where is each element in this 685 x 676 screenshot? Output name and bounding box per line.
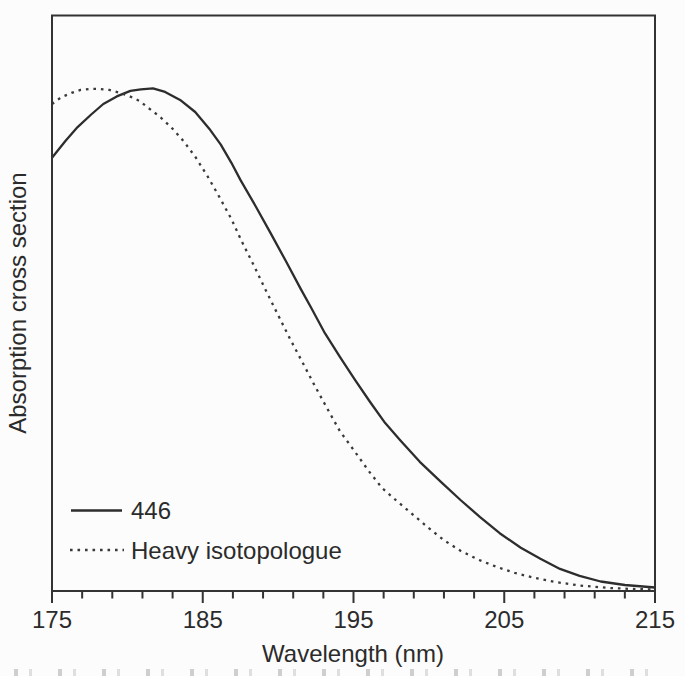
x-axis-tick-labels: 175185195205215 <box>32 606 675 633</box>
x-axis-label: Wavelength (nm) <box>262 640 444 667</box>
x-tick-label: 185 <box>183 606 223 633</box>
x-tick-label: 195 <box>333 606 373 633</box>
y-axis-label: Absorption cross section <box>4 172 31 433</box>
legend-label-446: 446 <box>131 497 171 524</box>
cropped-caption-fragments <box>14 669 666 676</box>
x-tick-label: 175 <box>32 606 72 633</box>
x-tick-label: 205 <box>484 606 524 633</box>
x-tick-label: 215 <box>635 606 675 633</box>
legend: 446 Heavy isotopologue <box>70 497 342 564</box>
spectra-plot: 175185195205215 Absorption cross section… <box>0 0 685 676</box>
legend-label-heavy-isotopologue: Heavy isotopologue <box>131 537 342 564</box>
figure-canvas: 175185195205215 Absorption cross section… <box>0 0 685 676</box>
